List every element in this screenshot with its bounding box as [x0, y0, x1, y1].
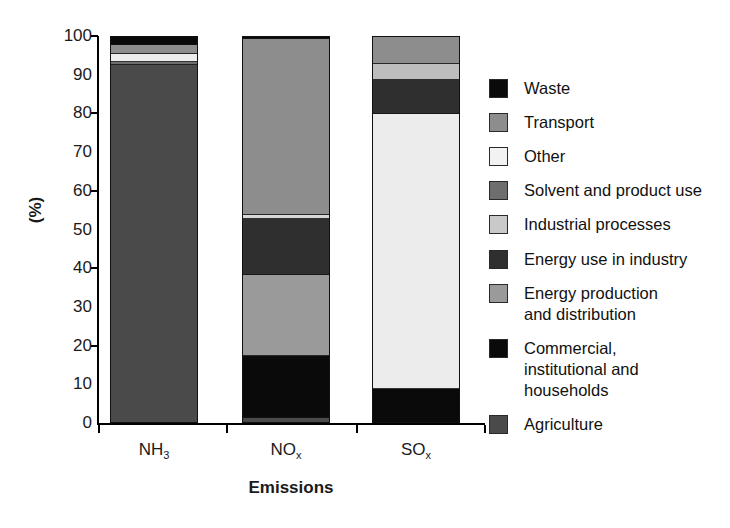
legend-item: Agriculture [489, 414, 727, 435]
bar-segment [243, 275, 329, 356]
x-tick-label-NOx: NOx [216, 440, 356, 460]
legend-item: Solvent and product use [489, 180, 727, 201]
legend-item: Energy use in industry [489, 249, 727, 270]
bar-segment [373, 389, 459, 423]
legend-label: Transport [524, 112, 594, 133]
legend-label: Agriculture [524, 414, 603, 435]
x-axis-title: Emissions [97, 478, 485, 498]
legend-item: Industrial processes [489, 214, 727, 235]
bar-segment [243, 219, 329, 275]
legend-label: Energy use in industry [524, 249, 687, 270]
x-tick-label-NH3: NH3 [84, 440, 224, 460]
bar-NOx [242, 36, 330, 423]
y-tick-mark-20 [91, 345, 98, 347]
x-tick-mark-3 [484, 425, 486, 433]
bar-segment [243, 418, 329, 423]
legend-swatch-icon [489, 339, 508, 358]
bar-NH3 [110, 36, 198, 423]
bar-segment [373, 114, 459, 389]
legend-swatch-icon [489, 147, 508, 166]
legend-swatch-icon [489, 415, 508, 434]
x-tick-mark-1 [226, 425, 228, 433]
y-tick-mark-60 [91, 190, 98, 192]
y-tick-mark-80 [91, 112, 98, 114]
legend-swatch-icon [489, 79, 508, 98]
legend-label: Industrial processes [524, 214, 671, 235]
bar-segment [111, 45, 197, 55]
bar-segment [373, 37, 459, 64]
legend-item: Commercial, institutional and households [489, 338, 727, 401]
legend-item: Waste [489, 78, 727, 99]
legend-label: Commercial, institutional and households [524, 338, 639, 401]
legend-swatch-icon [489, 113, 508, 132]
x-tick-mark-0 [98, 425, 100, 433]
legend-swatch-icon [489, 284, 508, 303]
bar-segment [111, 37, 197, 45]
chart-legend: WasteTransportOtherSolvent and product u… [489, 78, 727, 448]
bar-segment [111, 54, 197, 62]
x-tick-label-SOx: SOx [346, 440, 486, 460]
bar-segment [243, 39, 329, 215]
bar-segment [243, 356, 329, 418]
legend-item: Transport [489, 112, 727, 133]
bar-segment [373, 80, 459, 115]
legend-swatch-icon [489, 250, 508, 269]
legend-swatch-icon [489, 215, 508, 234]
legend-item: Other [489, 146, 727, 167]
y-tick-mark-100 [91, 35, 98, 37]
bar-segment [111, 65, 197, 423]
emissions-stacked-bar-chart: (%) 1009080706050403020100 NH3NOxSOx Emi… [0, 0, 730, 528]
bar-SOx [372, 36, 460, 423]
legend-label: Waste [524, 78, 570, 99]
legend-label: Other [524, 146, 565, 167]
x-tick-mark-2 [356, 425, 358, 433]
legend-item: Energy production and distribution [489, 283, 727, 325]
legend-label: Energy production and distribution [524, 283, 658, 325]
y-tick-mark-40 [91, 267, 98, 269]
legend-label: Solvent and product use [524, 180, 702, 201]
bar-segment [373, 64, 459, 79]
legend-swatch-icon [489, 181, 508, 200]
